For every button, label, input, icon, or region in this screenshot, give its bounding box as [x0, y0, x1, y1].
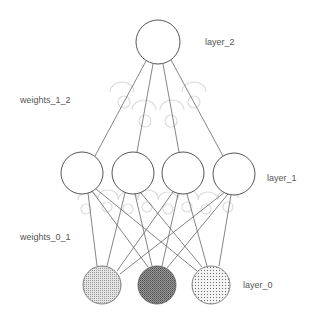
weight-knob-icon [110, 82, 134, 108]
weights-1-2-knobs [110, 82, 206, 127]
weight-knob-icon [158, 192, 178, 214]
weight-knob-icon [182, 82, 206, 108]
neural-network-diagram: layer_2 weights_1_2 layer_1 weights_0_1 … [0, 0, 312, 327]
layer-0-node [192, 266, 230, 304]
layer-2-label: layer_2 [205, 37, 235, 47]
layer-1-label: layer_1 [267, 173, 297, 183]
layer-1-node [112, 152, 154, 194]
layer-0-node [138, 266, 176, 304]
layer-2-node [136, 20, 180, 64]
layer-0-node [83, 266, 121, 304]
layer-1-node [162, 152, 204, 194]
weights-0-1-label: weights_0_1 [19, 232, 71, 242]
weights-1-2-label: weights_1_2 [19, 95, 71, 105]
edges-0-1 [88, 189, 231, 274]
layer-0-label: layer_0 [243, 280, 273, 290]
layer-1-node [213, 153, 255, 195]
edges-1-2 [95, 60, 223, 156]
layer-1-node [61, 152, 103, 194]
